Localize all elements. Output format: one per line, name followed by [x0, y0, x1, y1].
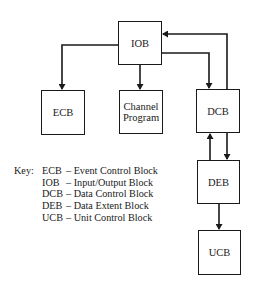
iob-label: IOB	[131, 38, 149, 49]
ucb-box: UCB	[198, 230, 241, 275]
legend-item: ECB– Event Control Block	[42, 165, 158, 177]
arrow-iob-to-dcb	[162, 53, 209, 88]
deb-label: DEB	[208, 177, 229, 188]
legend-item: DCB– Data Control Block	[42, 188, 158, 200]
deb-box: DEB	[197, 160, 240, 204]
legend-item: UCB– Unit Control Block	[42, 212, 158, 224]
channel-program-box: Channel Program	[119, 90, 163, 134]
ecb-label: ECB	[53, 107, 73, 118]
dcb-label: DCB	[207, 106, 229, 117]
ecb-box: ECB	[41, 90, 85, 135]
channel-program-label-line2: Program	[123, 112, 159, 123]
arrow-dcb-to-iob	[163, 34, 227, 89]
legend-title: Key:	[14, 165, 34, 177]
ucb-label: UCB	[209, 247, 231, 258]
legend-item: IOB– Input/Output Block	[42, 177, 158, 189]
channel-program-label-line1: Channel	[124, 101, 159, 112]
dcb-box: DCB	[196, 89, 240, 133]
legend-item: DEB– Data Extent Block	[42, 200, 158, 212]
iob-box: IOB	[118, 21, 162, 65]
arrow-iob-to-ecb	[62, 45, 118, 89]
legend-list: ECB– Event Control Block IOB– Input/Outp…	[42, 165, 158, 224]
